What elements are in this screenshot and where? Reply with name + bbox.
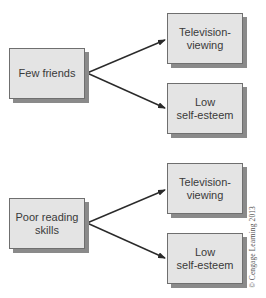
box-low-self-esteem-1: Low self-esteem <box>167 83 243 134</box>
box-label-line1: Television- <box>179 176 231 189</box>
box-label-line1: Television- <box>179 26 231 39</box>
box-label-line2: skills <box>16 224 79 237</box>
box-label-line1: Poor reading <box>16 211 79 224</box>
box-poor-reading-skills: Poor reading skills <box>9 198 85 249</box>
arrow-poor-reading-to-television <box>87 190 165 223</box>
box-low-self-esteem-2: Low self-esteem <box>167 233 243 284</box>
box-label-line2: self-esteem <box>177 109 234 122</box>
arrow-few-friends-to-low-self-esteem <box>87 73 165 108</box>
arrow-poor-reading-to-low-self-esteem <box>87 223 165 258</box>
copyright-credit: © Cengage Learning 2013 <box>248 206 257 288</box>
arrow-few-friends-to-television <box>87 40 165 73</box>
box-label-line1: Low <box>177 96 234 109</box>
box-label-line1: Low <box>177 246 234 259</box>
diagram-canvas: Few friends Television- viewing Low self… <box>0 0 266 298</box>
box-label-line2: viewing <box>179 39 231 52</box>
box-label-line1: Few friends <box>19 67 76 80</box>
box-few-friends: Few friends <box>9 48 85 99</box>
box-label-line2: viewing <box>179 189 231 202</box>
box-label-line2: self-esteem <box>177 259 234 272</box>
box-television-viewing-2: Television- viewing <box>167 163 243 214</box>
box-television-viewing-1: Television- viewing <box>167 13 243 64</box>
